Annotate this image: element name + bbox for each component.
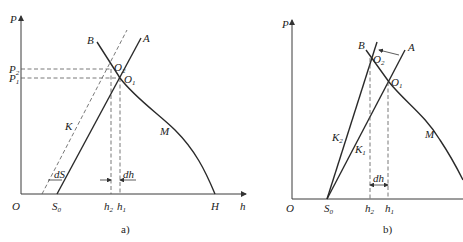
tick-s0-b: S0 <box>324 202 334 216</box>
origin-label-b: O <box>286 202 294 214</box>
panel-b: P O B A O2 O1 K2 K1 M dh S0 h2 h1 b) <box>281 18 463 236</box>
label-k2-b: K2 <box>331 131 343 145</box>
h-axis-label-a: h <box>240 200 246 212</box>
rotation-arrow-b <box>379 50 399 55</box>
dh-label-b: dh <box>373 172 385 184</box>
p-axis-label-a: P <box>9 13 17 25</box>
label-m-a: M <box>159 125 170 137</box>
tick-h2-b: h2 <box>365 202 375 216</box>
caption-b: b) <box>383 223 393 236</box>
tick-h2-a: h2 <box>104 200 114 214</box>
label-a-b: A <box>407 41 415 53</box>
label-m-b: M <box>424 128 435 140</box>
label-k1-b: K1 <box>354 143 366 157</box>
label-b-b: B <box>358 39 365 51</box>
tick-h1-a: h1 <box>117 200 126 214</box>
panel-a: P h O P2 P1 B A K M O2 O1 dS dh S0 h2 h1 <box>8 13 246 236</box>
caption-a: a) <box>121 223 130 236</box>
point-o1-a: O1 <box>124 73 135 87</box>
origin-label-a: O <box>12 200 20 212</box>
label-k-a: K <box>64 120 73 132</box>
p-axis-label-b: P <box>281 18 289 30</box>
line-k2-b <box>327 42 377 199</box>
line-k1-b <box>327 50 405 199</box>
curve-bm-b <box>366 50 463 180</box>
point-o2-b: O2 <box>373 53 385 67</box>
point-o1-b: O1 <box>391 76 402 90</box>
dh-label-a: dh <box>123 168 135 180</box>
ds-label-a: dS <box>54 168 66 180</box>
label-b-a: B <box>87 34 94 46</box>
label-a-a: A <box>142 32 150 44</box>
tick-h1-b: h1 <box>385 202 394 216</box>
tick-H-a: H <box>210 200 220 212</box>
tick-s0-a: S0 <box>52 200 62 214</box>
diagram-canvas: P h O P2 P1 B A K M O2 O1 dS dh S0 h2 h1 <box>0 0 463 242</box>
